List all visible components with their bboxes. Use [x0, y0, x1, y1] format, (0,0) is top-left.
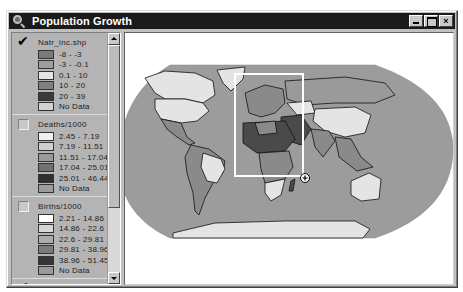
theme-visibility-checkbox[interactable] [18, 283, 29, 286]
legend-class-row: 20 - 39 [38, 91, 108, 102]
legend-class-row: 10 - 20 [38, 81, 108, 92]
legend-swatch[interactable] [38, 142, 54, 151]
map-view[interactable] [124, 32, 454, 285]
legend-class-label: 11.51 - 17.04 [59, 153, 108, 162]
legend-class-row: 14.86 - 22.6 [38, 224, 108, 235]
legend-class-row: No Data [38, 266, 108, 277]
legend-class-row: 38.96 - 51.45 [38, 255, 108, 266]
legend-class-label: 0.1 - 10 [59, 71, 88, 80]
legend-swatch[interactable] [38, 256, 54, 265]
maximize-button[interactable] [424, 15, 438, 27]
magnifier-icon [12, 14, 26, 28]
legend-swatch[interactable] [38, 184, 54, 193]
legend-swatch[interactable] [38, 163, 54, 172]
legend-list: Natr_inc.shp-8 - -3-3 - -0.10.1 - 1010 -… [12, 33, 108, 285]
scroll-down-button[interactable] [108, 272, 120, 284]
legend-swatch[interactable] [38, 174, 54, 183]
legend-class-label: 38.96 - 51.45 [59, 256, 109, 265]
legend-class-label: 20 - 39 [59, 92, 85, 101]
legend-swatch[interactable] [38, 71, 54, 80]
theme-header[interactable]: Countries [12, 281, 108, 285]
legend-class-row: 22.6 - 29.81 [38, 234, 108, 245]
zoom-in-cursor-icon [301, 174, 310, 183]
legend-swatch[interactable] [38, 266, 54, 275]
legend-theme: Natr_inc.shp-8 - -3-3 - -0.10.1 - 1010 -… [12, 33, 108, 112]
theme-header[interactable]: Deaths/1000 [12, 117, 108, 131]
legend-class-label: 2.45 - 7.19 [59, 132, 99, 141]
table-of-contents: Natr_inc.shp-8 - -3-3 - -0.10.1 - 1010 -… [11, 32, 121, 285]
title-bar[interactable]: Population Growth × [9, 13, 455, 29]
legend-theme: Countries [12, 278, 108, 285]
theme-header[interactable]: Natr_inc.shp [12, 35, 108, 49]
legend-class-row: 7.19 - 11.51 [38, 142, 108, 153]
theme-label: Deaths/1000 [38, 120, 87, 129]
legend-class-row: 17.04 - 25.01 [38, 163, 108, 174]
legend-swatch[interactable] [38, 214, 54, 223]
legend-class-row: 25.01 - 46.44 [38, 173, 108, 184]
population-growth-window: Population Growth × Natr_inc.shp-8 - -3-… [6, 10, 458, 288]
window-title: Population Growth [32, 15, 132, 27]
legend-class-label: 17.04 - 25.01 [59, 163, 109, 172]
legend-swatch[interactable] [38, 81, 54, 90]
legend-class-label: No Data [59, 102, 90, 111]
legend-class-row: 29.81 - 38.96 [38, 245, 108, 256]
legend-swatch[interactable] [38, 92, 54, 101]
legend-class-label: 22.6 - 29.81 [59, 235, 104, 244]
legend-theme: Births/10002.21 - 14.8614.86 - 22.622.6 … [12, 196, 108, 276]
legend-swatch[interactable] [38, 245, 54, 254]
legend-class-label: 2.21 - 14.86 [59, 214, 104, 223]
legend-class-row: No Data [38, 184, 108, 195]
legend-class-label: No Data [59, 266, 90, 275]
legend-theme: Deaths/10002.45 - 7.197.19 - 11.5111.51 … [12, 114, 108, 194]
legend-scrollbar[interactable] [107, 33, 120, 284]
legend-swatch[interactable] [38, 60, 54, 69]
legend-class-label: 10 - 20 [59, 81, 85, 90]
theme-label: Natr_inc.shp [38, 38, 87, 47]
legend-class-row: -3 - -0.1 [38, 60, 108, 71]
legend-class-label: No Data [59, 184, 90, 193]
legend-class-row: 11.51 - 17.04 [38, 152, 108, 163]
legend-swatch[interactable] [38, 235, 54, 244]
theme-label: Births/1000 [38, 202, 82, 211]
theme-visibility-checkbox[interactable] [18, 119, 29, 130]
legend-class-label: -3 - -0.1 [59, 60, 89, 69]
theme-visibility-checkbox[interactable] [18, 37, 29, 48]
legend-swatch[interactable] [38, 153, 54, 162]
close-button[interactable]: × [439, 15, 453, 27]
legend-class-label: 29.81 - 38.96 [59, 245, 109, 254]
legend-swatch[interactable] [38, 224, 54, 233]
theme-visibility-checkbox[interactable] [18, 201, 29, 212]
theme-label: Countries [38, 284, 75, 286]
theme-header[interactable]: Births/1000 [12, 199, 108, 213]
legend-class-row: 0.1 - 10 [38, 70, 108, 81]
close-icon: × [443, 16, 448, 26]
legend-class-label: -8 - -3 [59, 50, 82, 59]
legend-swatch[interactable] [38, 102, 54, 111]
scroll-up-button[interactable] [108, 33, 120, 45]
minimize-button[interactable] [409, 15, 423, 27]
legend-class-row: 2.45 - 7.19 [38, 131, 108, 142]
legend-class-label: 25.01 - 46.44 [59, 174, 109, 183]
window-controls: × [409, 15, 453, 27]
legend-class-row: -8 - -3 [38, 49, 108, 60]
legend-class-row: 2.21 - 14.86 [38, 213, 108, 224]
legend-swatch[interactable] [38, 50, 54, 59]
legend-class-label: 14.86 - 22.6 [59, 224, 104, 233]
world-map[interactable] [125, 33, 454, 285]
legend-class-label: 7.19 - 11.51 [59, 142, 104, 151]
africa-sahara [255, 121, 277, 135]
scroll-thumb[interactable] [108, 45, 120, 208]
legend-swatch[interactable] [38, 132, 54, 141]
legend-class-row: No Data [38, 102, 108, 113]
